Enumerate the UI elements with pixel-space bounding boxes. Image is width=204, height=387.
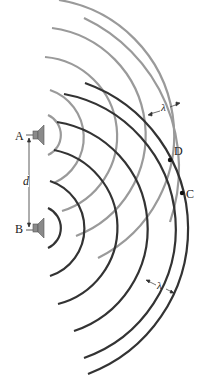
point-c-marker [180, 191, 184, 195]
label-source-a: A [15, 130, 24, 142]
label-wavelength-top: λ [161, 102, 166, 113]
label-source-b: B [15, 223, 23, 235]
label-wavelength-bottom: λ [157, 280, 162, 291]
source-b-wavefronts [48, 83, 188, 374]
label-point-c: C [186, 188, 194, 200]
interference-diagram [0, 0, 204, 387]
speaker-a-icon [33, 125, 44, 145]
label-separation: d [23, 175, 29, 187]
speaker-b-icon [33, 218, 44, 238]
source-a-wavefronts [45, 0, 179, 258]
point-d-marker [168, 158, 172, 162]
label-point-d: D [174, 145, 183, 157]
